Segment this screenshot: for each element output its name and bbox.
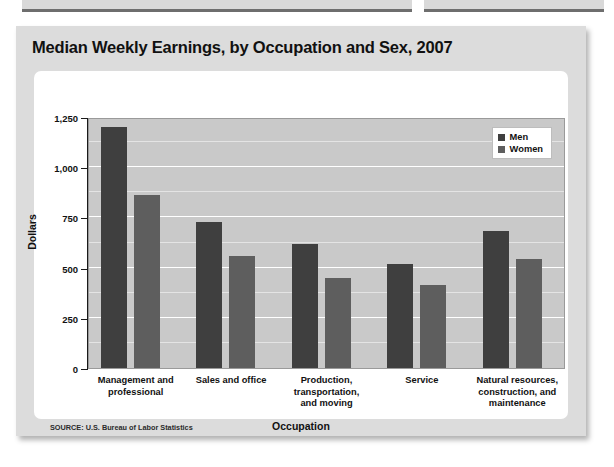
bar-women: [420, 285, 446, 368]
x-axis-category-label: Service: [374, 375, 469, 387]
bar-women: [229, 256, 255, 368]
y-axis-label-holder: 500: [34, 269, 78, 270]
plot-area: MenWomen: [88, 118, 565, 369]
legend-swatch-icon: [498, 134, 505, 141]
x-axis-label-line: professional: [88, 387, 183, 399]
bar-group: [184, 119, 279, 368]
chart-legend: MenWomen: [492, 127, 552, 159]
source-note: SOURCE: U.S. Bureau of Labor Statistics: [50, 423, 193, 432]
x-axis-label-line: Sales and office: [183, 375, 278, 387]
y-axis-tick-label: 1,000: [54, 163, 78, 174]
bar-men: [196, 222, 222, 368]
y-axis-tick-label: 0: [73, 364, 78, 375]
y-axis-label-holder: 1,250: [34, 118, 78, 119]
x-axis-category-label: Production,transportation,and moving: [279, 375, 374, 410]
x-axis-label-line: Service: [374, 375, 469, 387]
bar-men: [101, 127, 127, 368]
legend-label: Women: [510, 144, 543, 154]
y-axis-tick-label: 500: [62, 263, 78, 274]
gridline-major: [89, 116, 564, 117]
bar-women: [325, 278, 351, 368]
x-axis-category-label: Sales and office: [183, 375, 278, 387]
y-axis-label-holder: 1,000: [34, 168, 78, 169]
figure-title: Median Weekly Earnings, by Occupation an…: [32, 38, 452, 57]
bar-men: [483, 231, 509, 368]
y-axis-title: Dollars: [26, 214, 38, 250]
legend-swatch-icon: [498, 146, 505, 153]
x-axis-label-line: Management and: [88, 375, 183, 387]
bar-group: [375, 119, 470, 368]
x-axis-category-label: Natural resources,construction, andmaint…: [470, 375, 565, 410]
legend-row: Women: [498, 143, 543, 155]
x-axis-label-line: transportation,: [279, 387, 374, 399]
bar-women: [134, 195, 160, 368]
x-axis-label-line: maintenance: [470, 398, 565, 410]
y-axis-tick-label: 750: [62, 213, 78, 224]
legend-row: Men: [498, 131, 543, 143]
x-axis-label-line: Production,: [279, 375, 374, 387]
x-axis-category-label: Management andprofessional: [88, 375, 183, 398]
top-partial-box-right: [424, 0, 604, 12]
legend-label: Men: [510, 132, 529, 142]
bar-group: [89, 119, 184, 368]
y-axis-label-holder: 250: [34, 319, 78, 320]
y-axis-tick-label: 1,250: [54, 113, 78, 124]
x-axis-label-line: and moving: [279, 398, 374, 410]
y-axis-label-holder: 0: [34, 369, 78, 370]
bar-men: [387, 264, 413, 368]
page-top-artifacts: [0, 0, 614, 18]
bar-women: [516, 259, 542, 368]
y-axis-tick-label: 250: [62, 313, 78, 324]
bar-men: [292, 244, 318, 368]
bar-group: [280, 119, 375, 368]
chart-panel: 02505007501,0001,250 Dollars MenWomen Ma…: [34, 71, 568, 419]
top-partial-box-left: [22, 0, 412, 12]
y-axis-label-holder: 750: [34, 218, 78, 219]
x-axis-label-line: Natural resources,: [470, 375, 565, 387]
x-axis-label-line: construction, and: [470, 387, 565, 399]
plot-area-wrapper: 02505007501,0001,250 Dollars MenWomen Ma…: [34, 71, 568, 419]
figure-card: Median Weekly Earnings, by Occupation an…: [16, 26, 586, 436]
